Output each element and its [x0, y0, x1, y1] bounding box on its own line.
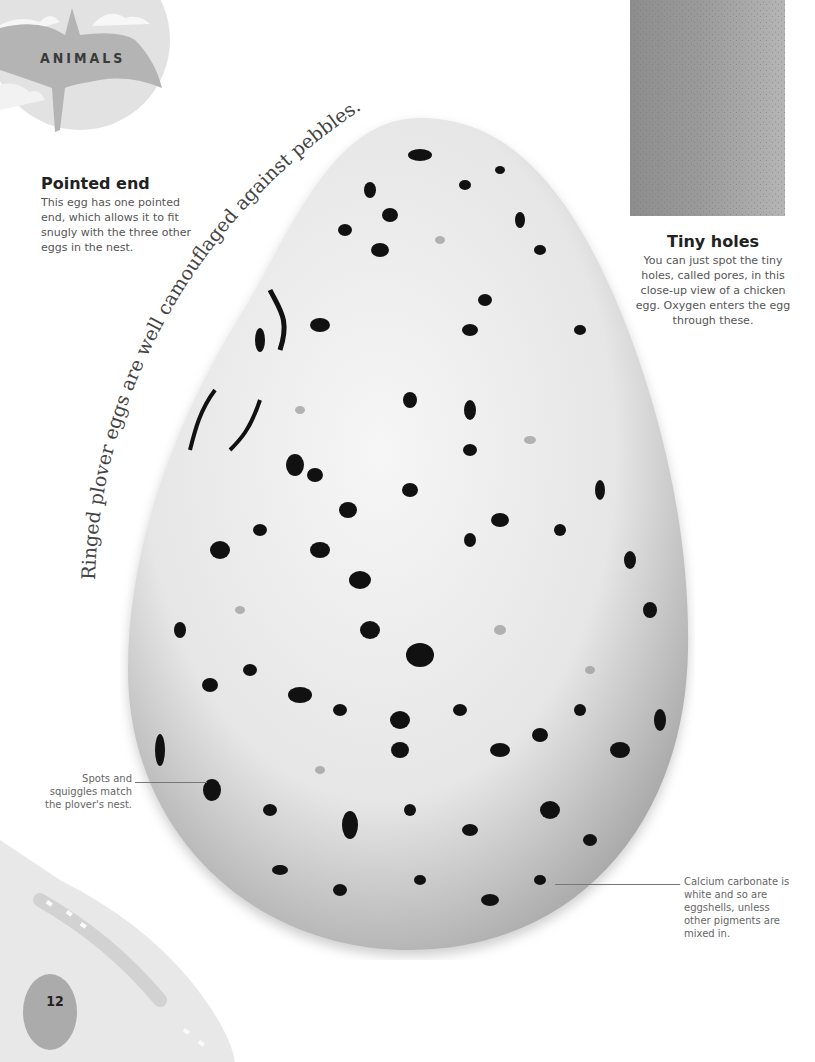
curved-caption-text: Ringed plover eggs are well camouflaged … [77, 94, 364, 580]
calcium-annotation: Calcium carbonate is white and so are eg… [684, 875, 794, 940]
calcium-leader-line [555, 884, 680, 885]
svg-text:Ringed plover eggs are well ca: Ringed plover eggs are well camouflaged … [77, 94, 364, 580]
page-number: 12 [40, 993, 70, 1009]
spots-leader-line [135, 782, 207, 783]
curved-caption: Ringed plover eggs are well camouflaged … [60, 60, 460, 600]
spots-annotation: Spots and squiggles match the plover's n… [40, 772, 132, 811]
feather-decoration-icon [0, 840, 240, 1062]
